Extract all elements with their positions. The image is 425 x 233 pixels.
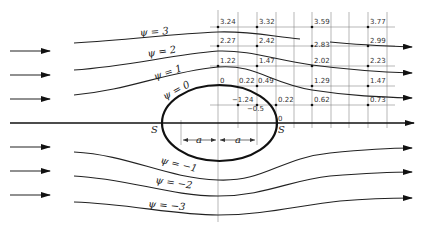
- value-label: 0: [220, 77, 224, 85]
- dimension-a: [183, 138, 255, 142]
- value-label: 2.42: [259, 37, 275, 45]
- value-label: 1.29: [314, 77, 330, 85]
- grid: [181, 10, 395, 222]
- value-label: 2.27: [220, 37, 236, 45]
- value-label: 0.22: [239, 77, 255, 85]
- value-label: 3.32: [259, 18, 275, 26]
- streamline-psi-neg1: [74, 148, 412, 180]
- streamline-psi-neg2: [74, 172, 412, 196]
- value-label: 1.47: [259, 57, 275, 65]
- streamline-psi-neg3: [74, 198, 412, 215]
- value-label: 3.77: [370, 18, 386, 26]
- value-label: 2.83: [314, 41, 330, 49]
- value-label: 3.24: [220, 18, 236, 26]
- value-label: 2.02: [314, 57, 330, 65]
- value-label: 0.22: [278, 96, 294, 104]
- dimension-a-right: a: [235, 134, 241, 145]
- label-psi-1: ψ = 1: [152, 62, 183, 81]
- value-label: 0.62: [314, 96, 330, 104]
- flow-diagram: 3.24 3.32 3.59 3.77 2.27 2.42 2.83 2.99 …: [0, 0, 425, 233]
- value-label: 0.49: [258, 77, 274, 85]
- label-psi-3: ψ = 3: [139, 25, 169, 38]
- value-label: 1.47: [370, 77, 386, 85]
- value-label: 2.99: [370, 37, 386, 45]
- value-label: 2.23: [370, 57, 386, 65]
- value-label: 0.73: [370, 96, 386, 104]
- value-label: 3.59: [314, 18, 330, 26]
- value-label: 1.22: [220, 57, 236, 65]
- value-label: −1.24: [232, 96, 254, 104]
- stagnation-right: S: [278, 124, 285, 135]
- stagnation-left: S: [151, 124, 158, 135]
- dimension-a-left: a: [196, 134, 202, 145]
- value-label: 0: [278, 115, 282, 123]
- value-label: −0.5: [247, 105, 264, 113]
- streamline-psi-2: [74, 51, 412, 73]
